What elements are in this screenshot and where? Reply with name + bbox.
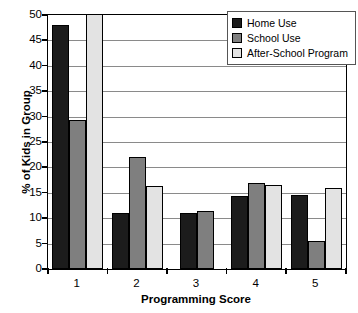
bar <box>197 211 214 269</box>
legend-item[interactable]: After-School Program <box>232 46 353 60</box>
y-axis-tick-label: 0 <box>2 262 42 274</box>
y-axis-tick-mark <box>42 192 48 194</box>
y-axis-tick-mark <box>42 217 48 219</box>
x-axis-tick-mark <box>285 268 287 274</box>
bar <box>52 25 69 269</box>
y-axis-tick-mark <box>42 14 48 16</box>
y-axis-tick-label: 35 <box>2 84 42 96</box>
bar <box>86 14 103 269</box>
bar <box>248 183 265 269</box>
x-axis-tick-mark <box>47 268 49 274</box>
legend-swatch-icon <box>232 18 242 28</box>
bar-chart: % of Kids in Group 50454035302520151050 … <box>0 0 358 313</box>
y-axis-tick-mark <box>42 141 48 143</box>
bar <box>325 188 342 269</box>
x-axis-title: Programming Score <box>47 293 345 305</box>
bar <box>180 213 197 269</box>
y-axis-tick-label: 10 <box>2 211 42 223</box>
y-axis-tick-mark <box>42 243 48 245</box>
y-axis-tick-mark <box>42 65 48 67</box>
y-axis-tick-label: 45 <box>2 33 42 45</box>
legend-item[interactable]: Home Use <box>232 16 353 30</box>
x-axis-tick-mark <box>226 268 228 274</box>
bar <box>291 195 308 269</box>
legend-label: School Use <box>247 32 301 44</box>
x-axis-tick-label: 2 <box>116 277 156 289</box>
y-axis-tick-labels: 50454035302520151050 <box>0 14 42 268</box>
legend-item[interactable]: School Use <box>232 31 353 45</box>
x-axis-tick-mark <box>345 268 347 274</box>
x-axis-tick-mark <box>107 268 109 274</box>
y-axis-tick-label: 30 <box>2 110 42 122</box>
bar <box>308 241 325 269</box>
legend-label: After-School Program <box>247 47 348 59</box>
bar <box>231 196 248 269</box>
bar-group <box>167 15 227 269</box>
bar <box>69 120 86 269</box>
bar-group <box>48 15 108 269</box>
y-axis-tick-mark <box>42 116 48 118</box>
legend: Home UseSchool UseAfter-School Program <box>227 11 356 65</box>
x-axis-tick-label: 5 <box>295 277 335 289</box>
legend-swatch-icon <box>232 33 242 43</box>
legend-swatch-icon <box>232 48 242 58</box>
y-axis-tick-label: 40 <box>2 59 42 71</box>
y-axis-tick-label: 50 <box>2 8 42 20</box>
y-axis-tick-mark <box>42 166 48 168</box>
bar-group <box>108 15 168 269</box>
bar <box>112 213 129 269</box>
y-axis-tick-label: 15 <box>2 186 42 198</box>
x-axis-tick-label: 4 <box>236 277 276 289</box>
y-axis-tick-label: 20 <box>2 160 42 172</box>
x-axis-tick-mark <box>166 268 168 274</box>
legend-label: Home Use <box>247 17 297 29</box>
y-axis-tick-label: 25 <box>2 135 42 147</box>
bar <box>146 186 163 269</box>
bar <box>265 185 282 269</box>
x-axis-tick-label: 3 <box>176 277 216 289</box>
y-axis-tick-mark <box>42 90 48 92</box>
bar <box>129 157 146 269</box>
x-axis-tick-label: 1 <box>57 277 97 289</box>
y-axis-tick-mark <box>42 39 48 41</box>
y-axis-tick-label: 5 <box>2 237 42 249</box>
